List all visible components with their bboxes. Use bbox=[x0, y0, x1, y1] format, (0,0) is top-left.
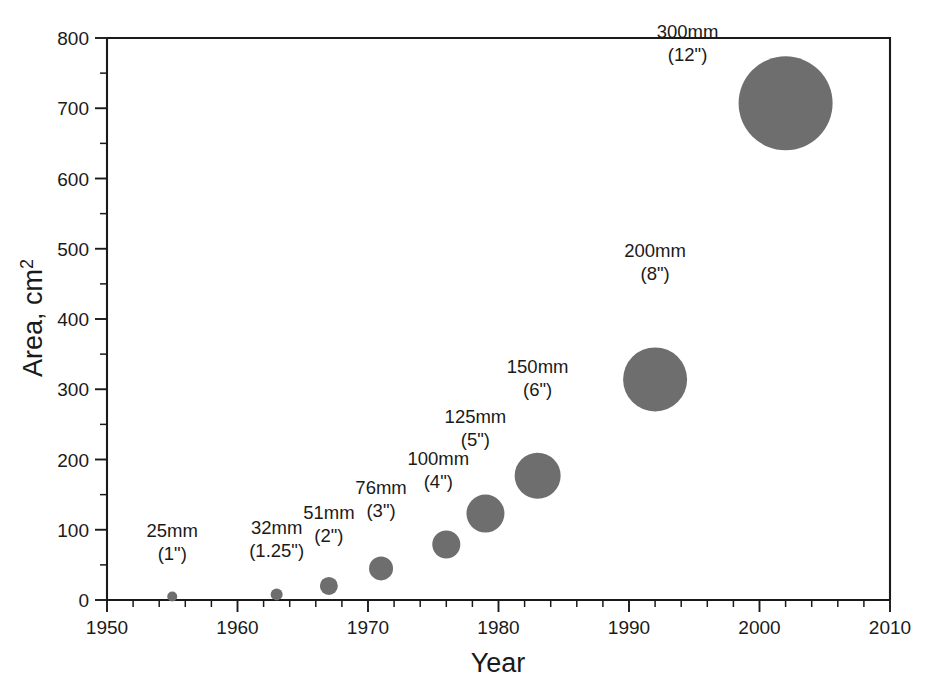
point-label-inch-150mm: (6") bbox=[523, 379, 552, 400]
point-label-mm-125mm: 125mm bbox=[445, 406, 507, 427]
y-tick-label: 600 bbox=[57, 169, 89, 190]
x-tick-label: 1980 bbox=[477, 617, 519, 638]
point-label-mm-100mm: 100mm bbox=[407, 448, 469, 469]
y-tick-label: 200 bbox=[57, 450, 89, 471]
bubble-marker-200mm bbox=[623, 347, 687, 411]
point-label-inch-200mm: (8") bbox=[641, 263, 670, 284]
point-label-inch-100mm: (4") bbox=[424, 471, 453, 492]
point-label-inch-300mm: (12") bbox=[668, 44, 707, 65]
y-tick-label: 700 bbox=[57, 98, 89, 119]
point-label-inch-32mm: (1.25") bbox=[249, 540, 304, 561]
y-tick-label: 500 bbox=[57, 239, 89, 260]
y-axis-title: Area, cm2 bbox=[17, 259, 48, 377]
bubble-marker-300mm bbox=[739, 56, 833, 150]
bubble-chart-figure: 1950196019701980199020002010 01002003004… bbox=[0, 0, 951, 685]
bubble-marker-100mm bbox=[432, 531, 460, 559]
bubble-marker-125mm bbox=[466, 495, 504, 533]
bubble-marker-150mm bbox=[515, 453, 561, 499]
point-label-mm-76mm: 76mm bbox=[355, 477, 406, 498]
bubble-marker-76mm bbox=[369, 556, 393, 580]
x-tick-label: 1970 bbox=[347, 617, 389, 638]
point-label-inch-76mm: (3") bbox=[366, 500, 395, 521]
x-tick-label: 2000 bbox=[738, 617, 780, 638]
point-label-inch-51mm: (2") bbox=[314, 525, 343, 546]
x-tick-label: 2010 bbox=[869, 617, 911, 638]
y-axis-tick-labels: 0100200300400500600700800 bbox=[57, 28, 89, 611]
y-axis-title-main: Area, cm bbox=[18, 269, 48, 377]
point-label-mm-150mm: 150mm bbox=[507, 356, 569, 377]
y-tick-label: 800 bbox=[57, 28, 89, 49]
y-tick-label: 0 bbox=[78, 590, 89, 611]
y-tick-label: 400 bbox=[57, 309, 89, 330]
point-label-mm-51mm: 51mm bbox=[303, 502, 354, 523]
y-tick-label: 300 bbox=[57, 379, 89, 400]
wafer-area-vs-year-chart: 1950196019701980199020002010 01002003004… bbox=[0, 0, 951, 685]
point-label-mm-25mm: 25mm bbox=[147, 520, 198, 541]
point-label-inch-25mm: (1") bbox=[158, 543, 187, 564]
bubble-marker-25mm bbox=[167, 591, 177, 601]
y-tick-label: 100 bbox=[57, 520, 89, 541]
point-label-inch-125mm: (5") bbox=[461, 429, 490, 450]
bubble-marker-51mm bbox=[320, 577, 338, 595]
x-tick-label: 1950 bbox=[86, 617, 128, 638]
svg-text:Area, cm2: Area, cm2 bbox=[17, 259, 48, 377]
point-label-mm-200mm: 200mm bbox=[624, 240, 686, 261]
x-axis-title: Year bbox=[471, 648, 526, 678]
bubble-marker-32mm bbox=[271, 588, 283, 600]
point-label-mm-32mm: 32mm bbox=[251, 517, 302, 538]
x-tick-label: 1960 bbox=[216, 617, 258, 638]
y-axis-title-superscript: 2 bbox=[17, 259, 37, 269]
x-tick-label: 1990 bbox=[608, 617, 650, 638]
point-label-mm-300mm: 300mm bbox=[657, 21, 719, 42]
